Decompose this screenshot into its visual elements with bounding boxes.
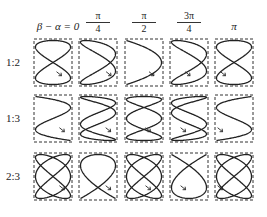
lissajous-cell	[79, 153, 117, 200]
direction-arrow-icon	[181, 128, 186, 132]
fraction-denominator: 2	[132, 23, 156, 34]
direction-arrow-icon	[106, 186, 111, 190]
lissajous-curve	[172, 41, 207, 85]
direction-arrow-icon	[57, 72, 62, 76]
lissajous-cell	[34, 95, 72, 142]
direction-arrow-icon	[106, 128, 111, 132]
direction-arrow-icon	[106, 72, 111, 76]
fraction-numerator: π	[86, 11, 110, 23]
direction-arrow-icon	[218, 128, 223, 132]
lissajous-curve	[36, 41, 71, 85]
column-header-2: π2	[132, 11, 156, 34]
lissajous-curve	[217, 41, 252, 85]
dashed-frame	[170, 153, 208, 200]
column-header-4: π	[219, 21, 249, 32]
fraction-numerator: 3π	[177, 11, 201, 23]
lissajous-curve	[217, 97, 252, 141]
column-header-1: π4	[86, 11, 110, 34]
lissajous-curve	[172, 155, 207, 199]
lissajous-curve	[81, 155, 116, 199]
lissajous-curve	[127, 97, 162, 141]
fraction-denominator: 4	[86, 23, 110, 34]
row-label-1-3: 1:3	[6, 112, 20, 124]
direction-arrow-icon	[221, 72, 226, 76]
lissajous-cell	[34, 153, 72, 200]
lissajous-cell	[34, 39, 72, 86]
lissajous-curve	[127, 41, 162, 85]
lissajous-cell	[170, 39, 208, 86]
lissajous-cell	[215, 39, 253, 86]
direction-arrow-icon	[146, 186, 151, 190]
fraction-denominator: 4	[177, 23, 201, 34]
lissajous-curve	[36, 155, 71, 199]
lissajous-curve	[36, 97, 71, 141]
lissajous-curve	[81, 97, 116, 141]
direction-arrow-icon	[181, 186, 186, 190]
dashed-frame	[79, 153, 117, 200]
lissajous-cell	[170, 153, 208, 200]
lissajous-curve	[127, 155, 162, 199]
lissajous-cell	[170, 95, 208, 142]
row-label-2-3: 2:3	[6, 170, 20, 182]
column-header-3: 3π4	[177, 11, 201, 34]
row-label-1-2: 1:2	[6, 56, 20, 68]
lissajous-cell	[125, 153, 163, 200]
lissajous-cell	[79, 39, 117, 86]
lissajous-cell	[79, 95, 117, 142]
direction-arrow-icon	[59, 128, 64, 132]
lissajous-cell	[125, 39, 163, 86]
lissajous-cell	[125, 95, 163, 142]
dashed-frame	[125, 39, 163, 86]
fraction-numerator: π	[132, 11, 156, 23]
lissajous-cell	[215, 95, 253, 142]
lissajous-cell	[215, 153, 253, 200]
lissajous-curve	[81, 41, 116, 85]
lissajous-curve	[217, 155, 252, 199]
lissajous-curve	[172, 97, 207, 141]
